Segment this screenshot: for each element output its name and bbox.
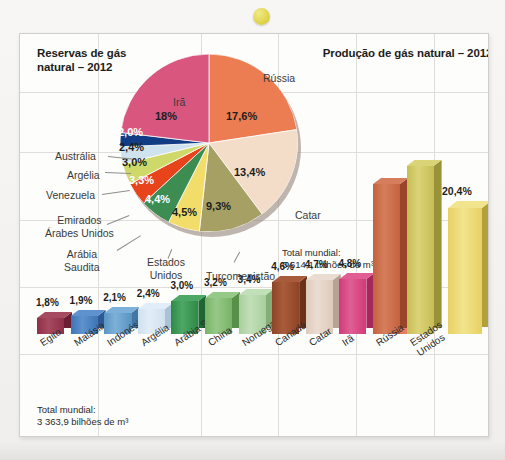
reserves-bar-value: 3,2%	[204, 277, 227, 288]
pie-category-label: Arábia Saudita	[64, 248, 100, 273]
total-bars-note: Total mundial: 3 363,9 bilhões de m³	[37, 404, 128, 427]
bar-side	[482, 201, 489, 327]
infographic-panel: Reservas de gás natural – 2012 Produção …	[19, 33, 489, 437]
gridline-vertical	[356, 34, 357, 436]
pie-category-label: Estados Unidos	[147, 256, 185, 281]
reserves-bar-value: 1,9%	[70, 295, 93, 306]
bar-front	[306, 280, 333, 334]
reserves-bar-value: 4,8%	[338, 258, 361, 269]
reserves-bar	[339, 279, 366, 334]
production-bar	[448, 208, 482, 334]
page-title-production: Produção de gás natural – 2012	[320, 46, 489, 60]
reserves-bar-value: 1,8%	[36, 297, 59, 308]
pie-category-label: Venezuela	[46, 189, 95, 202]
bar-front	[407, 166, 434, 334]
pie-slice	[209, 54, 297, 143]
leader-line	[105, 172, 131, 174]
bar-side	[434, 160, 442, 328]
bar-top	[448, 201, 489, 208]
reserves-bar	[373, 184, 400, 334]
reserves-bar	[306, 280, 333, 334]
reserves-bar-value: 4,6%	[271, 261, 294, 272]
reserves-bar-value: 3,0%	[170, 280, 193, 291]
pie-category-label: Argélia	[67, 169, 100, 182]
reserves-bar-value: 4,7%	[305, 259, 328, 270]
reserves-bar-value: 3,4%	[238, 274, 261, 285]
pie-category-label: Catar	[295, 209, 321, 222]
bar-front	[373, 184, 400, 334]
pie-category-label: Rússia	[263, 72, 295, 85]
pie-slice	[121, 54, 209, 143]
reserves-bar	[407, 166, 434, 334]
pie-category-label: Austrália	[55, 150, 96, 163]
leader-line	[117, 235, 141, 251]
leader-line	[234, 252, 241, 263]
reserves-bar-label: Irã	[340, 332, 356, 348]
pie-category-label: Irã	[173, 96, 185, 109]
yellow-dot	[253, 8, 270, 25]
bar-front	[339, 279, 366, 334]
reserves-bar-value: 2,1%	[103, 292, 126, 303]
pie-category-label: Emirados Árabes Unidos	[45, 214, 114, 239]
production-bar-value: 20,4%	[442, 185, 472, 197]
reserves-bar-value: 2,4%	[137, 288, 160, 299]
bar-front	[448, 208, 482, 334]
